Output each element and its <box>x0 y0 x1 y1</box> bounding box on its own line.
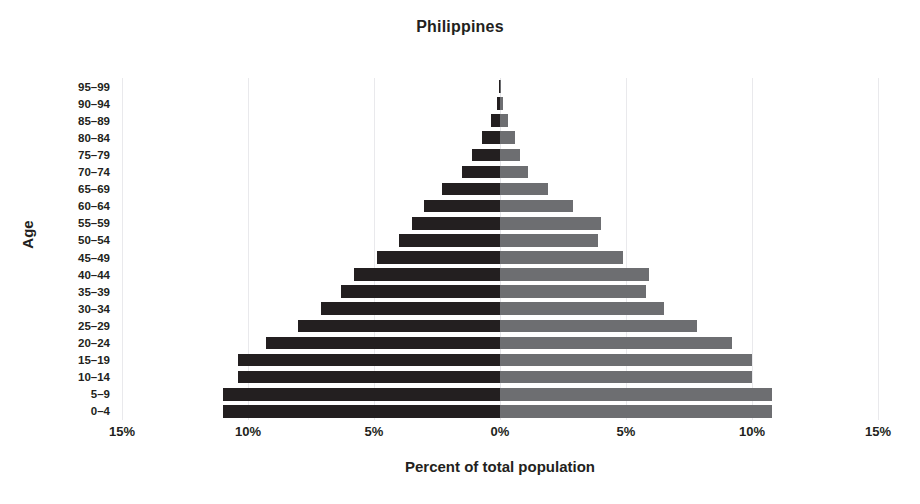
chart-title: Philippines <box>0 18 920 36</box>
bar-male <box>354 268 500 281</box>
bar-row <box>122 317 878 334</box>
y-tick-label: 80–84 <box>40 132 110 144</box>
y-tick-label: 10–14 <box>40 371 110 383</box>
bar-female <box>500 166 528 179</box>
bar-female <box>500 234 598 247</box>
y-tick-label: 40–44 <box>40 269 110 281</box>
bar-row <box>122 129 878 146</box>
bar-female <box>500 183 548 196</box>
bar-male <box>412 217 500 230</box>
x-tick-label: 15% <box>109 424 135 439</box>
y-tick-label: 70–74 <box>40 166 110 178</box>
bar-row <box>122 369 878 386</box>
gridline-15%-right <box>878 78 879 420</box>
bar-male <box>223 405 500 418</box>
bar-female <box>500 97 503 110</box>
y-tick-label: 60–64 <box>40 200 110 212</box>
bar-female <box>500 268 649 281</box>
bar-row <box>122 249 878 266</box>
bar-row <box>122 181 878 198</box>
x-tick-label: 0% <box>491 424 510 439</box>
y-tick-label: 65–69 <box>40 183 110 195</box>
y-tick-label: 45–49 <box>40 252 110 264</box>
bar-male <box>442 183 500 196</box>
bar-female <box>500 114 508 127</box>
bar-female <box>500 285 646 298</box>
bar-female <box>500 388 772 401</box>
y-tick-label: 15–19 <box>40 354 110 366</box>
bar-row <box>122 95 878 112</box>
bar-female <box>500 354 752 367</box>
bar-male <box>321 302 500 315</box>
bar-male <box>472 149 500 162</box>
y-tick-label: 95–99 <box>40 81 110 93</box>
bar-male <box>266 337 500 350</box>
y-tick-label: 0–4 <box>40 405 110 417</box>
bar-row <box>122 112 878 129</box>
bar-row <box>122 335 878 352</box>
y-tick-label: 30–34 <box>40 303 110 315</box>
bar-row <box>122 352 878 369</box>
bar-male <box>341 285 500 298</box>
x-tick-label: 10% <box>235 424 261 439</box>
y-tick-label: 75–79 <box>40 149 110 161</box>
bar-male <box>298 320 500 333</box>
y-tick-label: 90–94 <box>40 98 110 110</box>
bar-female <box>500 200 573 213</box>
x-axis-title: Percent of total population <box>122 458 878 475</box>
y-axis-title: Age <box>10 0 44 504</box>
bar-female <box>500 320 697 333</box>
y-tick-label: 35–39 <box>40 286 110 298</box>
x-tick-label: 5% <box>365 424 384 439</box>
bar-female <box>500 217 601 230</box>
bar-row <box>122 386 878 403</box>
bar-row <box>122 300 878 317</box>
bar-row <box>122 283 878 300</box>
y-tick-label: 25–29 <box>40 320 110 332</box>
bar-male <box>424 200 500 213</box>
y-tick-label: 5–9 <box>40 388 110 400</box>
bar-female <box>500 405 772 418</box>
bar-female <box>500 337 732 350</box>
y-tick-label: 85–89 <box>40 115 110 127</box>
plot-area <box>122 78 878 420</box>
bar-male <box>238 354 500 367</box>
bar-male <box>399 234 500 247</box>
bar-female <box>500 131 515 144</box>
bar-row <box>122 198 878 215</box>
bar-male <box>482 131 500 144</box>
bar-female <box>500 302 664 315</box>
bar-male <box>491 114 500 127</box>
population-pyramid-chart: Philippines Age 0–45–910–1415–1920–2425–… <box>0 0 920 504</box>
x-tick-label: 5% <box>617 424 636 439</box>
y-tick-label: 20–24 <box>40 337 110 349</box>
x-tick-label: 10% <box>739 424 765 439</box>
bar-row <box>122 232 878 249</box>
bar-male <box>377 251 500 264</box>
bar-male <box>462 166 500 179</box>
bar-male <box>238 371 500 384</box>
x-axis-tick-labels: 15%10%5%0%5%10%15% <box>122 424 878 448</box>
bar-row <box>122 266 878 283</box>
bar-female <box>500 80 501 93</box>
y-tick-label: 55–59 <box>40 217 110 229</box>
y-axis-title-label: Age <box>19 220 36 248</box>
y-axis-tick-labels: 0–45–910–1415–1920–2425–2930–3435–3940–4… <box>44 78 116 420</box>
bar-rows <box>122 78 878 420</box>
bar-row <box>122 215 878 232</box>
bar-male <box>223 388 500 401</box>
bar-row <box>122 164 878 181</box>
bar-row <box>122 78 878 95</box>
bar-row <box>122 146 878 163</box>
y-tick-label: 50–54 <box>40 234 110 246</box>
bar-female <box>500 371 752 384</box>
x-tick-label: 15% <box>865 424 891 439</box>
bar-row <box>122 403 878 420</box>
bar-female <box>500 251 623 264</box>
bar-female <box>500 149 520 162</box>
